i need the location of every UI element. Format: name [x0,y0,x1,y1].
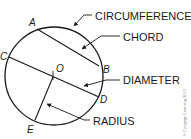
circle-outline [5,27,103,125]
radius-leader [47,104,90,120]
diameter-line [9,57,99,97]
circumference-label: CIRCUMFERENCE [95,10,191,22]
point-d-label: D [100,94,107,105]
radius-label: RADIUS [93,115,135,127]
point-b-label: B [103,64,110,75]
point-a-label: A [28,17,36,28]
circumference-leader [74,15,92,26]
point-e-label: E [27,124,34,135]
diameter-label: DIAMETER [123,74,180,86]
radius-line [35,77,53,120]
point-c-label: C [0,51,8,62]
copyright-text: © Cengage Learning 2013 [182,88,187,136]
chord-label: CHORD [123,31,163,43]
chord-leader [82,36,120,49]
point-o-label: O [56,63,64,74]
chord-line [37,29,99,66]
circle-parts-diagram: CIRCUMFERENCE CHORD DIAMETER RADIUS A B … [0,0,191,139]
